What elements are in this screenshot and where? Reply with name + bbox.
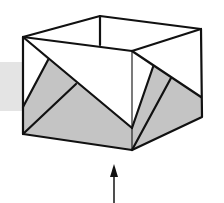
backdrop-panel [0, 62, 23, 111]
push-up-arrow-icon [110, 164, 118, 203]
origami-box-diagram [0, 0, 224, 203]
